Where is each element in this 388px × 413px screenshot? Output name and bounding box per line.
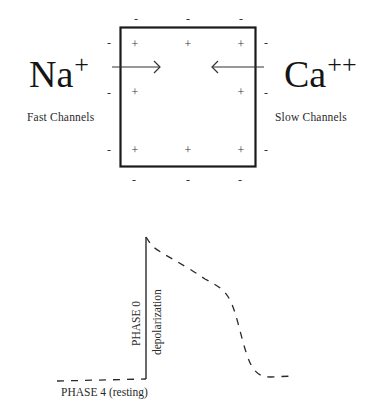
inside-charge: + [183, 144, 193, 156]
outside-charge: - [183, 13, 193, 25]
depolarization-label: depolarization [151, 289, 163, 355]
outside-charge: - [261, 144, 271, 156]
sodium-ion-charge: + [74, 50, 89, 79]
outside-charge: - [129, 174, 139, 186]
phase0-label: PHASE 0 [130, 301, 142, 346]
outside-charge: - [104, 144, 114, 156]
fast-channels-label: Fast Channels [27, 111, 94, 123]
slow-channels-label: Slow Channels [275, 111, 347, 123]
inside-charge: + [130, 38, 140, 50]
sodium-ion-label: Na+ [29, 52, 89, 93]
outside-charge: - [104, 87, 114, 99]
sodium-ion-symbol: Na [29, 53, 73, 95]
repolarization-dashed-line [146, 237, 294, 377]
calcium-ion-symbol: Ca [284, 53, 326, 95]
action-potential-curve [57, 237, 294, 381]
inside-charge: + [130, 144, 140, 156]
calcium-ion-label: Ca++ [284, 52, 357, 93]
outside-charge: - [104, 37, 114, 49]
phase4-resting-label: PHASE 4 (resting) [61, 386, 148, 398]
phase4-resting-line [57, 379, 146, 381]
outside-charge: - [261, 37, 271, 49]
inside-charge: + [236, 86, 246, 98]
inside-charge: + [236, 144, 246, 156]
outside-charge: - [261, 87, 271, 99]
na-inward-arrow-icon [112, 61, 160, 73]
outside-charge: - [236, 13, 246, 25]
inside-charge: + [236, 38, 246, 50]
outside-charge: - [183, 174, 193, 186]
inside-charge: + [183, 38, 193, 50]
outside-charge: - [235, 174, 245, 186]
inside-charge: + [130, 86, 140, 98]
calcium-ion-charge: ++ [327, 50, 356, 79]
outside-charge: - [131, 13, 141, 25]
